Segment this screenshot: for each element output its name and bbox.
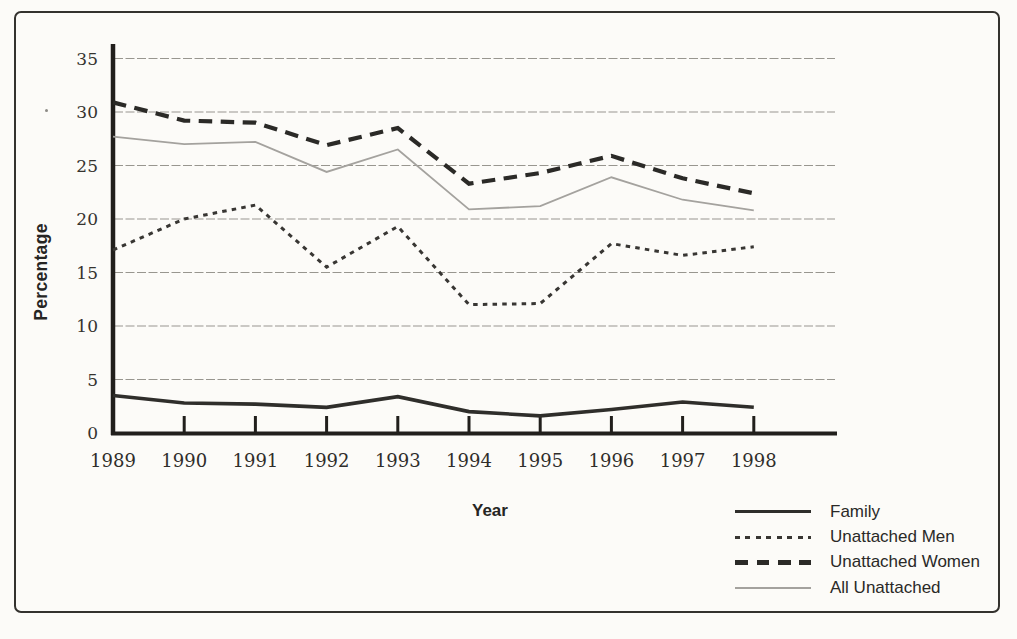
- legend: Family Unattached Men Unattached Women A…: [735, 499, 980, 601]
- x-axis-title: Year: [472, 501, 508, 521]
- y-tick-label-15: 15: [54, 262, 98, 284]
- scanned-chart-page: Percentage Year 05101520253035 198919901…: [0, 0, 1017, 639]
- x-tick-label-1992: 1992: [291, 449, 363, 473]
- y-tick-label-10: 10: [54, 315, 98, 337]
- legend-item-unattached-women: Unattached Women: [735, 550, 980, 575]
- legend-swatch-all-unattached-line: [735, 587, 811, 589]
- x-tick-label-1989: 1989: [77, 449, 149, 473]
- x-tick-label-1997: 1997: [647, 449, 719, 473]
- x-tick-label-1993: 1993: [362, 449, 434, 473]
- x-tick-label-1994: 1994: [433, 449, 505, 473]
- legend-label-unattached-men: Unattached Men: [830, 527, 955, 547]
- series-line-family: [113, 396, 754, 416]
- x-tick-label-1995: 1995: [504, 449, 576, 473]
- legend-swatch-unattached-men-line: [735, 536, 811, 539]
- legend-item-all-unattached: All Unattached: [735, 575, 980, 600]
- x-tick-label-1998: 1998: [718, 449, 790, 473]
- y-tick-label-5: 5: [54, 369, 98, 391]
- y-tick-label-0: 0: [54, 422, 98, 444]
- series-line-unattached-men: [113, 205, 754, 305]
- legend-label-unattached-women: Unattached Women: [830, 552, 980, 572]
- x-tick-label-1991: 1991: [219, 449, 291, 473]
- legend-swatch-family-line: [735, 510, 811, 514]
- y-axis-title: Percentage: [31, 223, 52, 320]
- series-line-all-unattached: [113, 137, 754, 211]
- y-tick-label-35: 35: [54, 48, 98, 70]
- legend-swatch-unattached-women-line: [735, 560, 811, 564]
- y-tick-label-25: 25: [54, 155, 98, 177]
- x-tick-label-1996: 1996: [575, 449, 647, 473]
- x-tick-label-1990: 1990: [148, 449, 220, 473]
- legend-item-unattached-men: Unattached Men: [735, 524, 980, 549]
- legend-item-family: Family: [735, 499, 980, 524]
- y-tick-label-20: 20: [54, 208, 98, 230]
- y-tick-label-30: 30: [54, 101, 98, 123]
- legend-label-all-unattached: All Unattached: [830, 578, 941, 598]
- legend-label-family: Family: [830, 502, 880, 522]
